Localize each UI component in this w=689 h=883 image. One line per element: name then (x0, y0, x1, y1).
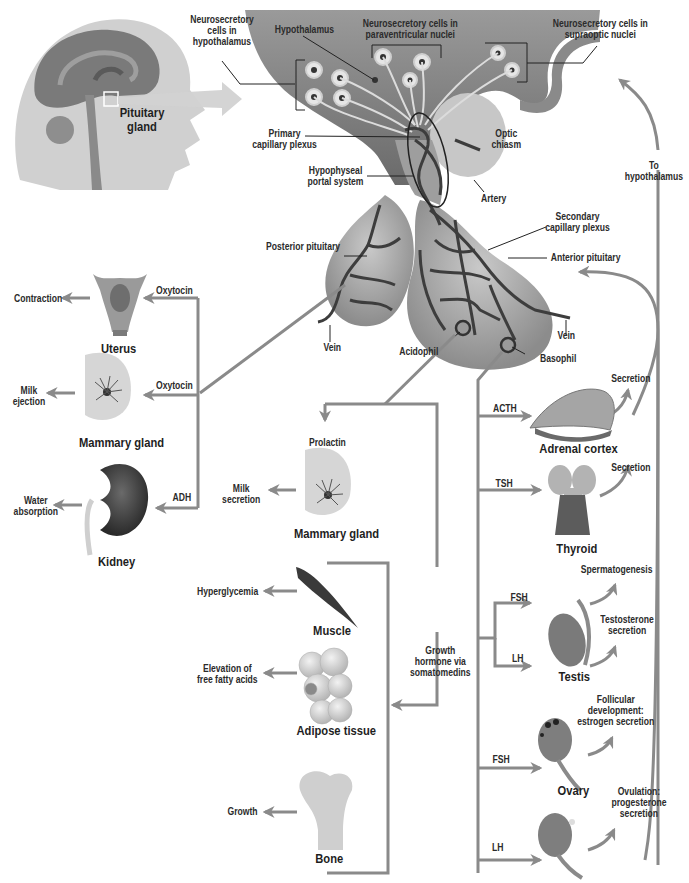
testis-fsh-label: FSH (510, 592, 527, 603)
testis-icon (543, 600, 592, 671)
ovary-lh-label: LH (492, 842, 503, 853)
primary-capillary-plexus-label: Primary capillary plexus (252, 128, 317, 150)
basophil-label: Basophil (540, 353, 576, 364)
thyroid-label: Thyroid (556, 542, 597, 556)
hypothalamus-region (245, 10, 600, 370)
adrenal-secretion-label: Secretion (611, 373, 650, 384)
kidney-hormone-label: ADH (173, 492, 192, 503)
ovulation-label: Ovulation: progesterone secretion (611, 786, 666, 819)
hypophyseal-portal-system-label: Hypophyseal portal system (308, 165, 364, 187)
supraoptic-label: Neurosecretory cells in supraoptic nucle… (553, 18, 648, 40)
ovary-label: Ovary (558, 784, 590, 798)
adipose-tissue-label: Adipose tissue (296, 724, 376, 738)
vein-right-label: Vein (557, 330, 575, 341)
thyroid-icon (548, 465, 596, 535)
vein-left-label: Vein (323, 342, 341, 353)
neurosecretory-hypothalamus-label: Neurosecretory cells in hypothalamus (190, 14, 254, 47)
paraventricular-label: Neurosecretory cells in paraventricular … (363, 18, 458, 40)
testosterone-secretion-label: Testosterone secretion (600, 614, 653, 636)
ovary-2-icon (538, 813, 582, 878)
posterior-pituitary-label: Posterior pituitary (266, 241, 340, 252)
kidney-effect-label: Water absorption (14, 495, 58, 517)
mammary-gland-2-label: Mammary gland (294, 527, 379, 541)
anterior-pituitary-label: Anterior pituitary (551, 252, 621, 263)
pituitary-gland-inset-label: Pituitary gland (120, 106, 165, 134)
prolactin-label: Prolactin (309, 437, 346, 448)
growth-hormone-label: Growth hormone via somatomedins (410, 645, 471, 678)
ovary-fsh-label: FSH (492, 754, 509, 765)
secondary-capillary-plexus-label: Secondary capillary plexus (545, 211, 610, 233)
mammary-gland-icon (85, 353, 131, 420)
acth-label: ACTH (493, 403, 517, 414)
tsh-label: TSH (495, 478, 512, 489)
spermatogenesis-label: Spermatogenesis (581, 564, 653, 575)
uterus-hormone-label: Oxytocin (156, 285, 193, 296)
growth-effect-label: Growth (227, 806, 257, 817)
kidney-icon (87, 464, 148, 555)
mammary-effect-label: Milk ejection (13, 385, 46, 407)
mammary-hormone-label: Oxytocin (156, 380, 193, 391)
adrenal-cortex-label: Adrenal cortex (539, 442, 617, 456)
testis-lh-label: LH (512, 653, 523, 664)
thyroid-secretion-label: Secretion (611, 462, 650, 473)
kidney-label: Kidney (98, 555, 135, 569)
mammary-gland-2-icon (305, 448, 351, 515)
muscle-icon (296, 567, 358, 628)
bone-label: Bone (315, 852, 343, 866)
uterus-effect-label: Contraction (14, 293, 62, 304)
ovary-icon (538, 718, 580, 790)
adipose-tissue-icon (299, 648, 352, 724)
hypothalamus-label: Hypothalamus (275, 24, 334, 35)
uterus-label: Uterus (101, 342, 136, 356)
adrenal-cortex-icon (530, 389, 614, 442)
bone-icon (300, 771, 353, 850)
fatty-acids-label: Elevation of free fatty acids (197, 663, 258, 685)
milk-secretion-label: Milk secretion (222, 483, 260, 505)
muscle-label: Muscle (313, 624, 351, 638)
mammary-gland-label: Mammary gland (79, 436, 164, 450)
uterus-icon (93, 274, 147, 336)
to-hypothalamus-label: To hypothalamus (625, 160, 683, 182)
artery-label: Artery (481, 193, 506, 204)
optic-chiasm-label: Optic chiasm (491, 128, 521, 150)
acidophil-label: Acidophil (399, 346, 438, 357)
follicular-development-label: Follicular development: estrogen secreti… (577, 694, 654, 727)
testis-label: Testis (559, 670, 590, 684)
hyperglycemia-label: Hyperglycemia (197, 586, 258, 597)
